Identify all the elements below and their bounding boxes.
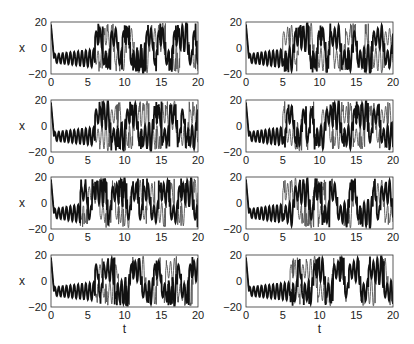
y-tick-label: 20	[230, 16, 242, 28]
y-tick-label: 0	[41, 197, 47, 209]
panel-r4c2: 05101520−20020t	[223, 249, 399, 336]
x-tick-label: 10	[118, 76, 130, 88]
y-tick-label: −20	[28, 301, 47, 313]
x-axis-label: t	[318, 322, 322, 336]
x-tick-label: 5	[280, 76, 286, 88]
x-tick-label: 20	[192, 231, 204, 243]
x-tick-label: 0	[48, 309, 54, 321]
x-tick-label: 5	[85, 309, 91, 321]
y-tick-label: 0	[236, 197, 242, 209]
x-tick-label: 15	[155, 76, 167, 88]
x-tick-label: 5	[85, 154, 91, 166]
x-tick-label: 15	[155, 154, 167, 166]
y-tick-label: −20	[223, 68, 242, 80]
x-tick-label: 10	[313, 154, 325, 166]
x-tick-label: 0	[48, 76, 54, 88]
x-tick-label: 5	[85, 231, 91, 243]
x-tick-label: 15	[155, 309, 167, 321]
x-tick-label: 15	[155, 231, 167, 243]
y-tick-label: 20	[35, 94, 47, 106]
x-tick-label: 0	[243, 309, 249, 321]
y-tick-label: −20	[28, 223, 47, 235]
y-tick-label: 20	[230, 249, 242, 261]
y-tick-label: 0	[236, 275, 242, 287]
x-tick-label: 20	[192, 76, 204, 88]
x-tick-label: 15	[350, 231, 362, 243]
panel-r2c1: 05101520−20020x	[19, 94, 204, 166]
panel-r1c1: 05101520−20020x	[19, 16, 204, 88]
panel-r1c2: 05101520−20020	[223, 16, 399, 88]
x-tick-label: 10	[118, 309, 130, 321]
y-axis-label: x	[19, 274, 25, 288]
x-tick-label: 5	[280, 309, 286, 321]
x-axis-label: t	[123, 322, 127, 336]
x-tick-label: 10	[313, 76, 325, 88]
x-tick-label: 20	[192, 154, 204, 166]
x-tick-label: 0	[48, 154, 54, 166]
y-tick-label: 0	[41, 120, 47, 132]
chart-grid: 05101520−20020x05101520−2002005101520−20…	[0, 0, 414, 344]
x-tick-label: 5	[280, 231, 286, 243]
series-thick	[51, 178, 198, 227]
x-tick-label: 15	[350, 76, 362, 88]
x-tick-label: 10	[118, 231, 130, 243]
y-tick-label: 0	[236, 120, 242, 132]
x-tick-label: 10	[313, 309, 325, 321]
panel-r4c1: 05101520−20020xt	[19, 249, 204, 336]
panel-r3c2: 05101520−20020	[223, 171, 399, 243]
x-tick-label: 0	[243, 231, 249, 243]
x-tick-label: 20	[387, 231, 399, 243]
x-tick-label: 10	[313, 231, 325, 243]
series-thick	[51, 101, 198, 150]
x-tick-label: 10	[118, 154, 130, 166]
x-tick-label: 15	[350, 154, 362, 166]
panel-r3c1: 05101520−20020x	[19, 171, 204, 243]
y-tick-label: −20	[28, 146, 47, 158]
y-tick-label: −20	[223, 146, 242, 158]
y-tick-label: 0	[41, 275, 47, 287]
x-tick-label: 20	[387, 76, 399, 88]
y-axis-label: x	[19, 196, 25, 210]
y-tick-label: 20	[35, 171, 47, 183]
series-thick	[246, 178, 393, 227]
x-tick-label: 20	[387, 154, 399, 166]
y-tick-label: 0	[236, 42, 242, 54]
y-axis-label: x	[19, 119, 25, 133]
y-tick-label: 20	[35, 16, 47, 28]
y-tick-label: −20	[223, 301, 242, 313]
y-tick-label: −20	[28, 68, 47, 80]
x-tick-label: 5	[280, 154, 286, 166]
panel-r2c2: 05101520−20020	[223, 94, 399, 166]
y-tick-label: 20	[230, 171, 242, 183]
x-tick-label: 0	[243, 76, 249, 88]
x-tick-label: 20	[387, 309, 399, 321]
y-tick-label: −20	[223, 223, 242, 235]
x-tick-label: 15	[350, 309, 362, 321]
x-tick-label: 20	[192, 309, 204, 321]
x-tick-label: 0	[48, 231, 54, 243]
y-axis-label: x	[19, 41, 25, 55]
x-tick-label: 0	[243, 154, 249, 166]
y-tick-label: 0	[41, 42, 47, 54]
x-tick-label: 5	[85, 76, 91, 88]
y-tick-label: 20	[230, 94, 242, 106]
y-tick-label: 20	[35, 249, 47, 261]
